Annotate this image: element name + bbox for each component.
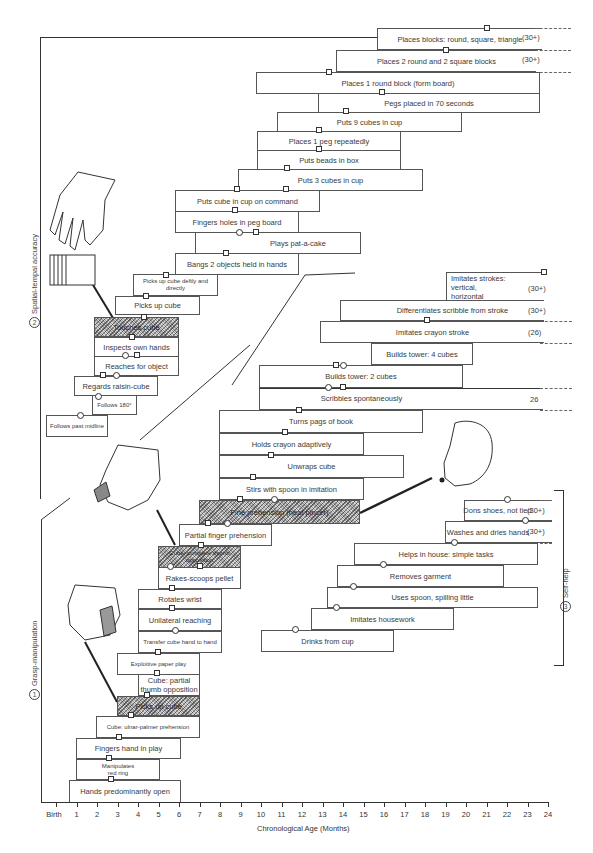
square-marker [134, 352, 140, 358]
square-marker [129, 334, 135, 340]
milestone-places-blocks: Places blocks: round, square, triangle [377, 28, 542, 50]
square-marker [154, 670, 160, 676]
milestone-note: (26) [528, 328, 541, 337]
square-marker [343, 108, 349, 114]
open-end-dash [535, 28, 571, 29]
x-axis-tick-label: 11 [278, 810, 286, 819]
x-axis-tick [507, 802, 508, 807]
square-marker [100, 372, 106, 378]
milestone-fingers-hand: Fingers hand in play [76, 738, 181, 759]
milestone-unwraps-cube: Unwraps cube [219, 455, 404, 478]
x-axis-tick-label: 1 [74, 810, 78, 819]
square-marker [282, 429, 288, 435]
open-end-dash [540, 343, 572, 344]
milestone-note: (30+) [528, 306, 546, 315]
x-axis-tick [364, 802, 365, 807]
x-axis-tick [261, 802, 262, 807]
circle-marker [340, 362, 347, 369]
milestone-touches-cube: Touches cube [94, 317, 179, 337]
circle-marker [271, 496, 278, 503]
x-axis-tick [282, 802, 283, 807]
scribbles-top-line [259, 388, 543, 389]
x-axis-label: Chronological Age (Months) [257, 824, 350, 833]
square-marker [253, 229, 259, 235]
x-axis-tick [466, 802, 467, 807]
square-marker [169, 605, 175, 611]
square-marker [443, 47, 449, 53]
milestone-note: (30+) [527, 506, 545, 515]
square-marker [116, 734, 122, 740]
open-end-dash [540, 543, 552, 544]
square-marker [283, 186, 289, 192]
x-axis-tick [138, 802, 139, 807]
square-marker [232, 207, 238, 213]
square-marker [143, 293, 149, 299]
square-marker [234, 186, 240, 192]
x-axis-tick-label: 2 [95, 810, 99, 819]
circle-marker [224, 520, 231, 527]
square-marker [268, 452, 274, 458]
square-marker [424, 317, 430, 323]
circle-marker [350, 583, 357, 590]
circle-marker [113, 372, 120, 379]
circle-marker [504, 496, 511, 503]
x-axis-tick [343, 802, 344, 807]
milestone-hands-open: Hands predominantly open [69, 780, 181, 803]
milestone-partial-finger: Partial finger prehension [179, 524, 272, 546]
x-axis-tick [548, 802, 549, 807]
circle-marker [451, 539, 458, 546]
milestone-uses-spoon: Uses spoon, spilling little [327, 587, 538, 608]
milestone-note: (30+) [522, 55, 540, 64]
milestone-puts-9-cubes: Puts 9 cubes in cup [277, 112, 462, 132]
open-end-dash [535, 72, 571, 73]
x-axis-tick-label: 10 [257, 810, 265, 819]
x-axis-tick-label: 8 [218, 810, 222, 819]
milestone-imitates-housework: Imitates housework [311, 608, 454, 630]
open-end-dash [540, 321, 572, 322]
milestone-picks-up-cube-s2: Picks up cube [115, 296, 200, 315]
x-axis-tick-label: 24 [544, 810, 552, 819]
x-axis-tick [118, 802, 119, 807]
x-axis-tick [97, 802, 98, 807]
milestone-turns-pages: Turns pags of book [219, 410, 423, 433]
x-axis-tick-label: 17 [400, 810, 408, 819]
milestone-note: (30+) [527, 527, 545, 536]
milestone-drinks-cup: Drinks from cup [261, 630, 394, 652]
x-axis-tick-label: 19 [441, 810, 449, 819]
square-marker [169, 585, 175, 591]
x-axis-tick-label: 3 [115, 810, 119, 819]
milestone-puts-3-cubes: Puts 3 cubes in cup [238, 169, 423, 191]
x-axis-tick-label: 12 [298, 810, 306, 819]
section-3-label: 3Self-help [560, 568, 571, 612]
milestone-imitates-crayon: Imitates crayon stroke [320, 321, 544, 343]
x-axis-tick [56, 802, 57, 807]
x-axis-tick-label: 16 [380, 810, 388, 819]
x-axis-tick-label: 6 [177, 810, 181, 819]
milestone-note: 26 [530, 395, 538, 404]
x-axis-tick [487, 802, 488, 807]
square-marker [326, 69, 332, 75]
milestone-bangs-2-objects: Bangs 2 objects held in hands [175, 253, 299, 275]
milestone-fine-prehension: Fine prehension (neat pincer) [199, 500, 360, 524]
circle-marker [172, 627, 179, 634]
hand-holding-cube-illustration [88, 440, 168, 520]
milestone-transfer-cube: Transfer cube hand to hand [138, 631, 222, 653]
x-axis-tick-label: 23 [523, 810, 531, 819]
circle-marker [167, 563, 174, 570]
open-end-dash [540, 410, 572, 411]
x-axis-tick [323, 802, 324, 807]
milestone-manipulates-ring: Manipulates red ring [76, 759, 160, 780]
x-axis-tick [384, 802, 385, 807]
milestone-places-1round: Places 1 round block (form board) [256, 72, 540, 94]
hand-touching-cube-illustration [45, 150, 145, 280]
square-marker [316, 146, 322, 152]
x-axis-tick-label: 7 [197, 810, 201, 819]
x-axis-tick-label: 9 [238, 810, 242, 819]
circle-marker [77, 412, 84, 419]
milestone-ulnar-palmer: Cube: ulnar-palmer prehension [96, 716, 200, 738]
x-axis-tick-label: Birth [46, 810, 61, 819]
square-marker [163, 272, 169, 278]
x-axis-tick-label: 22 [503, 810, 511, 819]
x-axis-tick [425, 802, 426, 807]
milestone-unilateral-reaching: Unilateral reaching [138, 609, 222, 631]
